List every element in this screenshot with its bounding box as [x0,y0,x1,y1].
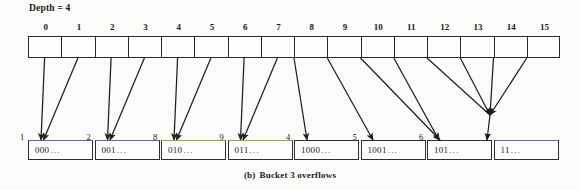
bucket-number-label: 2 [87,132,92,142]
bucket-5[interactable]: 51001... [361,140,426,160]
bucket-ellipsis: ... [182,145,193,155]
bucket-9[interactable]: 9011... [228,140,293,160]
bucket-number-label: 6 [419,132,424,142]
bucket-number-label: 8 [153,132,158,142]
bucket-7[interactable]: 711... [494,140,559,160]
bucket-ellipsis: ... [116,145,127,155]
bucket-value: 11 [501,145,510,155]
bucket-number-label: 4 [286,132,291,142]
bucket-value: 1001 [368,145,387,155]
bucket-ellipsis: ... [249,145,260,155]
bucket-value: 011 [235,145,249,155]
bucket-number-label: 9 [220,132,225,142]
bucket-ellipsis: ... [448,145,459,155]
caption-label: (b) [244,170,256,180]
bucket-value: 101 [434,145,448,155]
extendible-hashing-figure: Depth = 4 0123456789101112131415 [0,0,580,190]
bucket-ellipsis: ... [320,145,331,155]
bucket-number-label: 7 [486,132,491,142]
bucket-ellipsis: ... [49,145,60,155]
bucket-ellipsis: ... [510,145,521,155]
bucket-number-label: 5 [353,132,358,142]
bucket-value: 000 [35,145,49,155]
bucket-value: 001 [102,145,116,155]
pointer-connectors [0,0,580,190]
bucket-8[interactable]: 8010... [161,140,226,160]
bucket-1[interactable]: 1000... [28,140,93,160]
bucket-6[interactable]: 6101... [427,140,492,160]
bucket-2[interactable]: 2001... [95,140,160,160]
bucket-ellipsis: ... [387,145,398,155]
bucket-4[interactable]: 41000... [294,140,359,160]
bucket-value: 1000 [301,145,320,155]
bucket-number-label: 1 [20,132,25,142]
caption-text: Bucket 3 overflows [260,170,337,180]
bucket-value: 010 [168,145,182,155]
figure-caption: (b)Bucket 3 overflows [0,170,580,180]
